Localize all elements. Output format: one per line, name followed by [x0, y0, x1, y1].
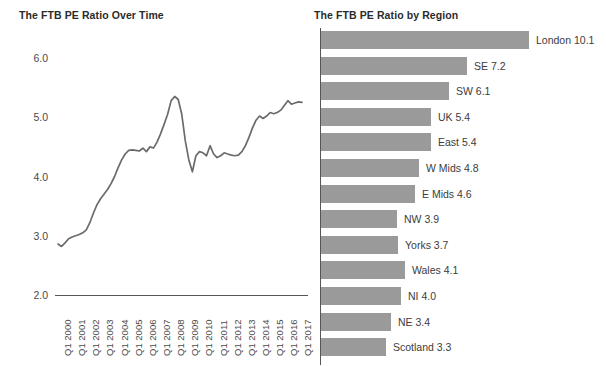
- line-chart-plot: [0, 0, 310, 300]
- line-chart-x-tick: Q1 2013: [246, 320, 257, 356]
- bar: [321, 210, 397, 228]
- bar: [321, 261, 405, 279]
- bar-value-label: Yorks 3.7: [398, 239, 448, 251]
- bar-chart-panel: The FTB PE Ratio by Region London 10.1SE…: [310, 0, 606, 366]
- line-chart-x-tick: Q1 2000: [62, 320, 73, 356]
- bar: [321, 108, 431, 126]
- line-chart-x-tick: Q1 2008: [175, 320, 186, 356]
- bar-value-label: NI 4.0: [401, 290, 436, 302]
- bar-chart-row: SW 6.1: [321, 82, 490, 100]
- line-chart-x-tick: Q1 2015: [274, 320, 285, 356]
- bar-chart-row: Scotland 3.3: [321, 338, 451, 356]
- bar: [321, 159, 419, 177]
- bar-chart-row: East 5.4: [321, 133, 477, 151]
- line-chart-x-tick: Q1 2003: [104, 320, 115, 356]
- bar-value-label: Scotland 3.3: [386, 341, 451, 353]
- bar-value-label: W Mids 4.8: [419, 162, 479, 174]
- bar-value-label: NW 3.9: [397, 213, 439, 225]
- bar: [321, 57, 467, 75]
- dual-chart-page: The FTB PE Ratio Over Time 2.03.04.05.06…: [0, 0, 606, 366]
- bar-value-label: NE 3.4: [391, 316, 430, 328]
- bar-chart-row: NI 4.0: [321, 287, 436, 305]
- bar: [321, 185, 415, 203]
- line-chart-x-tick: Q1 2014: [260, 320, 271, 356]
- line-chart-x-tick: Q1 2004: [119, 320, 130, 356]
- line-chart-x-tick: Q1 2010: [203, 320, 214, 356]
- line-chart-x-tick: Q1 2001: [76, 320, 87, 356]
- line-chart-x-tick: Q1 2007: [161, 320, 172, 356]
- line-chart-x-tick: Q1 2002: [90, 320, 101, 356]
- bar-chart-row: Yorks 3.7: [321, 236, 448, 254]
- bar: [321, 313, 391, 331]
- line-chart-x-tick: Q1 2009: [189, 320, 200, 356]
- bar: [321, 82, 449, 100]
- bar-value-label: SE 7.2: [467, 60, 506, 72]
- bar: [321, 236, 398, 254]
- line-chart-x-tick: Q1 2016: [288, 320, 299, 356]
- bar-chart-row: London 10.1: [321, 31, 594, 49]
- bar-chart-row: W Mids 4.8: [321, 159, 479, 177]
- bar-value-label: East 5.4: [431, 136, 477, 148]
- pe-ratio-series: [58, 97, 302, 247]
- bar-chart-row: E Mids 4.6: [321, 185, 472, 203]
- line-chart-x-tick: Q1 2005: [133, 320, 144, 356]
- line-chart-x-tick: Q1 2006: [147, 320, 158, 356]
- bar-value-label: UK 5.4: [431, 111, 470, 123]
- bar-chart-row: NW 3.9: [321, 210, 439, 228]
- bar-value-label: E Mids 4.6: [415, 188, 472, 200]
- line-chart-x-tick: Q1 2011: [218, 320, 229, 356]
- bar-chart-row: NE 3.4: [321, 313, 430, 331]
- bar-chart-row: Wales 4.1: [321, 261, 458, 279]
- bar-value-label: London 10.1: [529, 34, 594, 46]
- bar: [321, 338, 386, 356]
- line-chart-panel: The FTB PE Ratio Over Time 2.03.04.05.06…: [0, 0, 310, 366]
- bar-value-label: Wales 4.1: [405, 264, 458, 276]
- bar-value-label: SW 6.1: [449, 85, 490, 97]
- bar-chart-row: UK 5.4: [321, 108, 470, 126]
- bar: [321, 133, 431, 151]
- bar: [321, 287, 401, 305]
- bar-chart-title: The FTB PE Ratio by Region: [314, 9, 458, 21]
- line-chart-x-axis: [55, 295, 308, 296]
- bar: [321, 31, 529, 49]
- bar-chart-row: SE 7.2: [321, 57, 506, 75]
- line-chart-x-tick: Q1 2012: [232, 320, 243, 356]
